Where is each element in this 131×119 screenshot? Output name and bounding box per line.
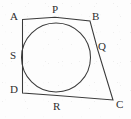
inscribed-circle [22, 23, 91, 92]
tangent-label-s: S [10, 50, 16, 61]
vertex-label-d: D [10, 84, 18, 95]
tangent-label-p: P [52, 4, 58, 15]
vertex-label-a: A [10, 11, 18, 22]
geometry-figure: A B C D P Q R S [0, 0, 131, 119]
vertex-label-b: B [92, 11, 99, 22]
vertex-label-c: C [116, 99, 123, 110]
figure-canvas [0, 0, 131, 119]
tangent-label-q: Q [98, 41, 106, 52]
tangent-label-r: R [53, 101, 60, 112]
